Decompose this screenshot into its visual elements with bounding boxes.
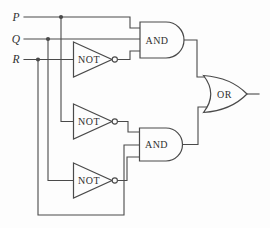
or-gate-label: OR <box>217 89 232 100</box>
junction-dot-p <box>59 15 63 19</box>
wire-not1-out <box>118 51 141 60</box>
or-gate: OR <box>204 76 248 113</box>
and-gate-2: AND <box>140 128 183 161</box>
wire-and1-out <box>184 40 207 77</box>
not-gate-2-label: NOT <box>78 116 100 127</box>
not-gate-3-label: NOT <box>78 175 100 186</box>
not-gate-2: NOT <box>74 104 118 139</box>
not-gate-1: NOT <box>74 42 118 77</box>
wire-not2-out <box>118 122 140 133</box>
not-gate-1-label: NOT <box>78 54 100 65</box>
gate-output-nets <box>118 40 260 181</box>
and-gate-1: AND <box>140 22 184 58</box>
not-gate-1-bubble-icon <box>112 57 117 62</box>
not-gate-2-bubble-icon <box>112 119 117 124</box>
input-label-r: R <box>11 53 19 65</box>
junction-dot-r <box>36 57 40 61</box>
not-gate-3: NOT <box>74 163 118 198</box>
input-label-q: Q <box>12 33 21 45</box>
junction-dot-q <box>46 37 50 41</box>
input-labels: P Q R <box>11 11 20 66</box>
input-label-p: P <box>11 11 19 23</box>
logic-circuit-diagram: NOT NOT NOT AND AND OR P Q R <box>0 0 270 228</box>
and-gate-2-label: AND <box>145 139 168 150</box>
wire-not3-out <box>118 157 140 181</box>
and-gate-1-label: AND <box>145 35 168 46</box>
not-gate-3-bubble-icon <box>112 178 117 183</box>
